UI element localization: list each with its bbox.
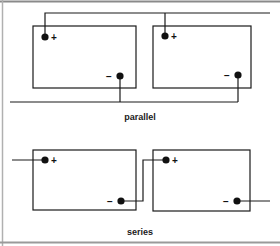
parallel-diagram <box>10 13 270 102</box>
negative-sign: − <box>224 70 230 81</box>
terminal-negative-icon <box>116 72 123 79</box>
positive-sign: + <box>171 31 177 42</box>
series-link-wire <box>121 160 166 201</box>
series-terminals <box>41 156 240 204</box>
parallel-terminals <box>41 32 241 79</box>
terminal-positive-icon <box>162 156 169 163</box>
terminal-positive-icon <box>161 32 168 39</box>
negative-sign: − <box>106 71 112 82</box>
parallel-positive-wire <box>45 13 270 37</box>
terminal-negative-icon <box>234 71 241 78</box>
terminal-positive-icon <box>41 156 48 163</box>
terminal-negative-icon <box>117 197 124 204</box>
negative-sign: − <box>107 196 113 207</box>
terminal-positive-icon <box>41 33 48 40</box>
series-label: series <box>127 227 153 237</box>
battery-wiring-diagram: + − + − parallel + − + − series <box>0 0 280 246</box>
positive-sign: + <box>172 155 178 166</box>
terminal-negative-icon <box>233 197 240 204</box>
negative-sign: − <box>223 196 229 207</box>
positive-sign: + <box>51 32 57 43</box>
parallel-label: parallel <box>124 112 156 122</box>
positive-sign: + <box>51 155 57 166</box>
